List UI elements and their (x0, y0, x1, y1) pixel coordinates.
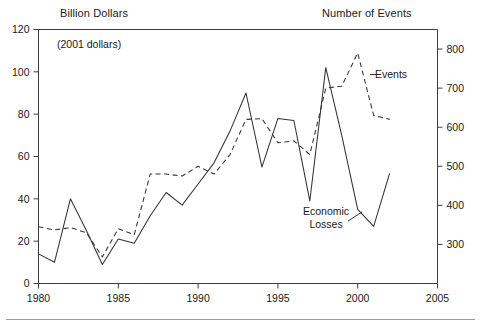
ticks-layer: 0204060801001203004005006007008001980198… (12, 23, 464, 303)
series-line-events (39, 53, 390, 257)
chart-figure: Billion Dollars Number of Events (2001 d… (0, 0, 481, 329)
x-tick-label: 1980 (27, 292, 51, 304)
y-tick-label: 60 (18, 150, 30, 162)
footer-rule (6, 319, 475, 320)
y-tick-label: 20 (18, 235, 30, 247)
axes-layer (39, 30, 438, 284)
leader-lines-layer (348, 75, 377, 222)
y2-tick-label: 300 (447, 238, 465, 250)
x-tick-label: 2005 (426, 292, 450, 304)
x-tick-label: 1985 (107, 292, 131, 304)
y-tick-label: 0 (24, 277, 30, 289)
plot-canvas: 0204060801001203004005006007008001980198… (0, 0, 481, 329)
x-tick-label: 1995 (266, 292, 290, 304)
leader-line-economic-losses (348, 212, 362, 221)
y2-tick-label: 500 (447, 160, 465, 172)
x-tick-label: 1990 (186, 292, 210, 304)
y-tick-label: 120 (12, 23, 30, 35)
series-layer (39, 53, 390, 265)
x-tick-label: 2000 (346, 292, 370, 304)
series-line-economic-losses (39, 68, 390, 265)
y-tick-label: 100 (12, 66, 30, 78)
y2-tick-label: 700 (447, 82, 465, 94)
y-tick-label: 40 (18, 193, 30, 205)
y2-tick-label: 400 (447, 199, 465, 211)
y2-tick-label: 800 (447, 43, 465, 55)
y2-tick-label: 600 (447, 121, 465, 133)
y-tick-label: 80 (18, 108, 30, 120)
